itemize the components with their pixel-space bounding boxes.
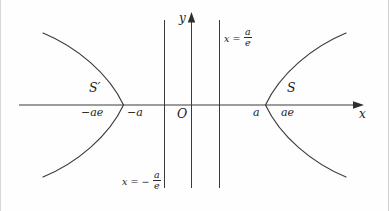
left-directrix-sign: −	[141, 176, 149, 187]
right-vertex-label: a	[253, 107, 260, 118]
y-axis-label: y	[179, 12, 186, 24]
x-axis-label: x	[359, 108, 366, 120]
right-focus-label: S	[287, 82, 296, 95]
right-directrix-lhs: x	[224, 33, 229, 44]
right-directrix-denominator: e	[244, 37, 252, 48]
left-directrix-equals: =	[130, 176, 138, 187]
left-directrix-lhs: x	[122, 176, 127, 187]
right-directrix-equals: =	[232, 33, 240, 44]
origin-label: O	[177, 108, 187, 121]
right-focus-value: ae	[281, 107, 294, 118]
left-focus-value: −ae	[81, 107, 103, 118]
right-directrix-numerator: a	[244, 27, 252, 37]
right-directrix-equation: x = a e	[224, 27, 252, 47]
left-focus-label: S′	[89, 82, 100, 95]
figure-canvas	[1, 0, 389, 211]
left-directrix-equation: x = − a e	[122, 170, 161, 190]
left-directrix-denominator: e	[153, 180, 161, 191]
hyperbola-figure: x y O S′ −ae −a a S ae x = a e x = − a e	[0, 0, 389, 211]
left-vertex-label: −a	[127, 107, 143, 118]
right-directrix-fraction: a e	[244, 27, 252, 47]
y-axis	[188, 12, 195, 188]
left-directrix-numerator: a	[153, 170, 161, 180]
left-directrix-fraction: a e	[153, 170, 161, 190]
